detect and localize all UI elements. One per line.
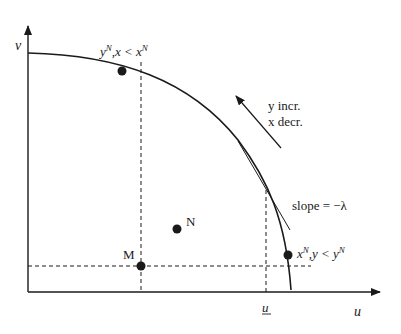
point-lower — [284, 251, 293, 260]
label-lower-point: xN,y < yN — [296, 245, 346, 261]
point-upper — [118, 67, 127, 76]
x-axis-label: u — [354, 304, 361, 319]
guide-lines — [28, 62, 311, 292]
tangent-line — [238, 141, 290, 230]
direction-text-line2: x decr. — [268, 114, 303, 129]
y-axis-label: v — [15, 38, 22, 53]
label-n: N — [186, 214, 196, 229]
x-tick-label: u — [262, 300, 269, 315]
point-n — [173, 225, 182, 234]
frontier-curve — [28, 53, 291, 290]
frontier-diagram: v u u yN,x < xN xN,y < yN M N y incr. x … — [0, 0, 401, 334]
label-upper-point: yN,x < xN — [98, 43, 149, 59]
direction-text-line1: y incr. — [268, 98, 301, 113]
point-m — [137, 262, 146, 271]
label-m: M — [123, 247, 135, 262]
slope-text: slope = −λ — [292, 198, 348, 213]
